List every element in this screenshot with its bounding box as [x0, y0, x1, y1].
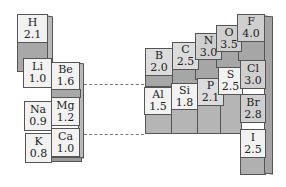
element-value: 2.5 [244, 144, 262, 156]
shelf-ca [51, 157, 82, 162]
element-value: 1.8 [176, 97, 194, 109]
element-value: 0.8 [30, 148, 48, 160]
element-value: 1.5 [149, 101, 167, 113]
element-value: 1.2 [57, 112, 75, 124]
element-symbol: N [204, 35, 214, 47]
element-symbol: Si [179, 85, 190, 97]
element-value: 2.5 [177, 56, 195, 68]
connector-line-bottom [84, 134, 144, 135]
element-ca: Ca 1.0 [51, 128, 80, 157]
element-symbol: H [28, 17, 38, 29]
element-value: 0.9 [29, 116, 47, 128]
base-i [240, 157, 266, 175]
element-value: 1.0 [29, 73, 47, 85]
element-al: Al 1.5 [144, 87, 172, 115]
element-i: I 2.5 [240, 129, 266, 158]
base-si [171, 109, 199, 134]
element-symbol: I [251, 132, 255, 144]
base-al [145, 114, 173, 134]
shelf-b [145, 75, 173, 87]
element-mg: Mg 1.2 [51, 97, 80, 126]
element-symbol: Br [246, 97, 259, 109]
element-li: Li 1.0 [23, 58, 52, 88]
element-value: 2.0 [150, 62, 168, 74]
element-value: 2.1 [24, 29, 42, 41]
element-value: 3.5 [220, 39, 238, 51]
shelf-f [238, 41, 265, 61]
element-symbol: O [224, 27, 233, 39]
element-symbol: Ca [58, 131, 73, 143]
element-value: 2.5 [222, 81, 240, 93]
element-cl: Cl 3.0 [240, 60, 266, 89]
element-na: Na 0.9 [24, 101, 52, 131]
element-value: 1.6 [57, 76, 75, 88]
element-b: B 2.0 [145, 48, 173, 76]
element-value: 3.0 [244, 75, 262, 87]
element-br: Br 2.8 [240, 94, 266, 123]
element-f: F 4.0 [237, 14, 265, 42]
element-h: H 2.1 [17, 14, 48, 43]
connector-line-top [84, 84, 144, 85]
element-value: 1.0 [57, 143, 75, 155]
element-value: 2.8 [244, 109, 262, 121]
element-value: 4.0 [242, 28, 260, 40]
element-be: Be 1.6 [51, 62, 80, 90]
electronegativity-diagram: H 2.1 Li 1.0 Be 1.6 Na 0.9 Mg 1.2 K 0.8 … [0, 0, 286, 187]
element-symbol: Mg [56, 100, 74, 112]
element-value: 2.1 [202, 92, 220, 104]
element-si: Si 1.8 [171, 83, 198, 110]
element-value: 3.0 [200, 47, 218, 59]
element-k: K 0.8 [25, 133, 52, 163]
element-symbol: Cl [247, 63, 259, 75]
